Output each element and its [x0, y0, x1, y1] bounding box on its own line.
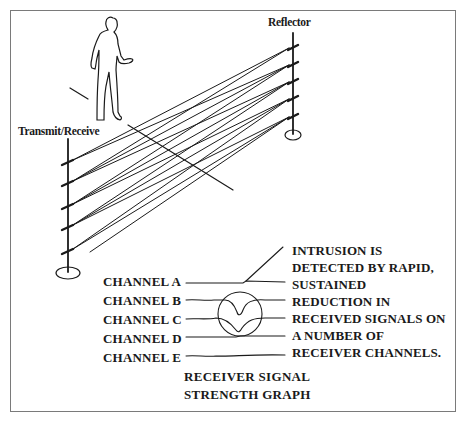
circle-highlight-icon	[218, 292, 262, 336]
note-line: A NUMBER OF	[292, 327, 446, 344]
channel-c-line	[186, 318, 285, 332]
note-line: REDUCTION IN	[292, 293, 446, 310]
shadow-line-left	[70, 88, 88, 99]
channel-b-line	[186, 300, 285, 315]
channel-d-line	[186, 336, 285, 337]
signal-graph	[186, 247, 285, 356]
reflector-label: Reflector	[268, 17, 311, 29]
channel-a-line	[186, 281, 285, 283]
note-line: DETECTED BY RAPID,	[292, 259, 446, 276]
intruder-person-icon	[91, 17, 133, 120]
caption-line: STRENGTH GRAPH	[184, 386, 311, 404]
channel-d-label: CHANNEL D	[103, 332, 182, 345]
channel-a-label: CHANNEL A	[103, 275, 181, 288]
note-line: RECEIVED SIGNALS ON	[292, 310, 446, 327]
transmit-receive-label: Transmit/Receive	[18, 126, 99, 138]
channel-e-line	[186, 355, 285, 356]
note-line: INTRUSION IS	[292, 242, 446, 259]
beam-lines	[73, 48, 289, 252]
transmit-receive-pole-icon	[56, 139, 80, 279]
callout-leader-line	[246, 247, 283, 281]
note-line: RECEIVER CHANNELS.	[292, 344, 446, 361]
channel-e-label: CHANNEL E	[103, 351, 181, 364]
caption-line: RECEIVER SIGNAL	[184, 368, 311, 386]
graph-caption: RECEIVER SIGNAL STRENGTH GRAPH	[184, 368, 311, 404]
channel-c-label: CHANNEL C	[103, 313, 182, 326]
intrusion-explanation-note: INTRUSION IS DETECTED BY RAPID, SUSTAINE…	[292, 242, 446, 361]
note-line: SUSTAINED	[292, 276, 446, 293]
channel-b-label: CHANNEL B	[103, 294, 181, 307]
